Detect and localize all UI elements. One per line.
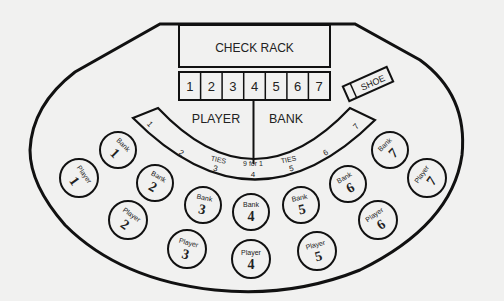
player-spot-7[interactable]: Player 7	[408, 159, 446, 197]
check-rack-label: CHECK RACK	[215, 41, 294, 55]
bank-spot-4[interactable]: Bank 4	[233, 194, 269, 230]
check-rack: CHECK RACK	[179, 25, 330, 67]
svg-text:2: 2	[118, 216, 132, 232]
player-betting-area-label: PLAYER	[192, 112, 240, 126]
rack-slots: 1 2 3 4 5 6 7	[179, 72, 330, 100]
rack-slot-1: 1	[186, 79, 193, 94]
player-spot-6[interactable]: Player 6	[359, 201, 397, 239]
player-spot-5[interactable]: Player 5	[298, 232, 336, 270]
svg-text:3: 3	[180, 246, 191, 262]
svg-text:1: 1	[66, 174, 82, 188]
bank-spot-2[interactable]: Bank 2	[137, 165, 173, 201]
bank-spot-6[interactable]: Bank 6	[330, 166, 366, 202]
svg-text:4: 4	[251, 170, 256, 179]
card-shoe: SHOE	[343, 67, 393, 101]
rack-slot-6: 6	[294, 79, 301, 94]
rack-slot-4: 4	[251, 79, 258, 94]
svg-text:4: 4	[248, 209, 255, 224]
bank-betting-area-label: BANK	[269, 112, 304, 126]
bank-spot-1[interactable]: Bank 1	[100, 132, 136, 168]
svg-text:7: 7	[423, 174, 439, 188]
svg-text:Bank: Bank	[291, 192, 309, 202]
svg-text:Player: Player	[241, 249, 262, 257]
player-spot-1[interactable]: Player 1	[60, 159, 98, 197]
svg-text:4: 4	[248, 257, 255, 272]
rack-slot-2: 2	[208, 79, 215, 94]
svg-text:5: 5	[288, 164, 295, 174]
bank-spot-7[interactable]: Bank 7	[372, 132, 408, 168]
rack-slot-3: 3	[229, 79, 236, 94]
svg-text:6: 6	[374, 216, 388, 232]
svg-text:1: 1	[145, 120, 155, 130]
svg-text:3: 3	[212, 164, 219, 174]
bank-spot-3[interactable]: Bank 3	[185, 187, 221, 223]
svg-text:6: 6	[343, 180, 357, 196]
svg-text:Bank: Bank	[243, 201, 259, 208]
svg-text:5: 5	[313, 248, 324, 264]
tie-payout-label: 9 for 1	[243, 160, 263, 167]
player-spot-2[interactable]: Player 2	[109, 201, 147, 239]
svg-text:1: 1	[107, 145, 123, 161]
svg-text:5: 5	[297, 201, 307, 217]
svg-text:2: 2	[146, 179, 160, 195]
player-spot-3[interactable]: Player 3	[168, 230, 206, 268]
svg-text:7: 7	[385, 145, 401, 161]
ties-left-label: TIES	[210, 155, 227, 165]
rack-slot-7: 7	[316, 79, 323, 94]
rack-slot-5: 5	[272, 79, 279, 94]
player-spot-4[interactable]: Player 4	[232, 240, 270, 278]
svg-text:7: 7	[351, 121, 361, 131]
baccarat-table-diagram: CHECK RACK 1 2 3 4 5 6 7 SHOE PLAYER BAN…	[0, 0, 504, 301]
ties-right-label: TIES	[280, 154, 297, 164]
svg-text:3: 3	[197, 201, 207, 217]
bank-spot-5[interactable]: Bank 5	[283, 187, 319, 223]
svg-text:Bank: Bank	[196, 193, 214, 203]
